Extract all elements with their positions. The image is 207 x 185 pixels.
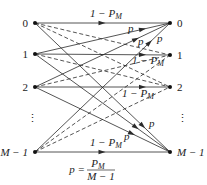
edge-label: 1 − PM: [122, 87, 155, 101]
arrowhead-icon: [99, 150, 106, 155]
input-node-L2: [33, 85, 37, 89]
probability-formula: p =PMM − 1: [68, 157, 115, 182]
edge-label: p: [123, 130, 130, 142]
edge-label: p: [156, 32, 163, 44]
input-label: M − 1: [0, 146, 28, 158]
ellipsis-right: ⋮: [177, 112, 188, 124]
output-label: 1: [177, 49, 183, 61]
edge-label: p: [127, 22, 134, 34]
output-label: 0: [177, 17, 183, 29]
formula-numerator: PM: [90, 157, 106, 171]
input-node-L0: [33, 21, 37, 25]
channel-graph: 012M − 1012M − 1⋮⋮ 1 − PMppp1 − PM1 − PM…: [0, 0, 207, 185]
output-node-R1: [168, 53, 172, 57]
arrowhead-icon: [99, 21, 106, 26]
edge-labels: 1 − PMppp1 − PM1 − PMpp1 − PM: [90, 7, 165, 150]
output-node-R0: [168, 21, 172, 25]
edge-label: p: [148, 117, 155, 129]
output-node-R2: [168, 85, 172, 89]
input-node-LM: [33, 150, 37, 154]
formula-denominator: M − 1: [86, 170, 115, 182]
ellipsis-left: ⋮: [27, 112, 38, 124]
formula-lhs: p =: [68, 163, 85, 175]
output-node-RM: [168, 150, 172, 154]
edge-label: p: [137, 35, 144, 47]
input-node-L1: [33, 52, 37, 56]
edge-label: 1 − PM: [90, 136, 123, 150]
edge-label: 1 − PM: [132, 54, 165, 68]
arrowhead-icon: [132, 123, 140, 131]
m-ary-channel-diagram: 012M − 1012M − 1⋮⋮ 1 − PMppp1 − PM1 − PM…: [0, 0, 207, 185]
input-label: 2: [23, 81, 29, 93]
edge-label: 1 − PM: [90, 7, 123, 21]
arrowhead-icon: [139, 26, 147, 32]
input-label: 1: [23, 48, 29, 60]
output-label: M − 1: [176, 146, 205, 158]
input-label: 0: [23, 17, 29, 29]
output-label: 2: [177, 81, 183, 93]
